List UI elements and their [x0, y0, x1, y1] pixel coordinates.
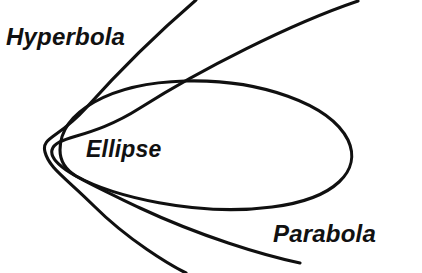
conic-sections-figure: Hyperbola Ellipse Parabola — [0, 0, 422, 273]
parabola-label: Parabola — [273, 220, 376, 248]
hyperbola-label: Hyperbola — [6, 23, 125, 51]
ellipse-label: Ellipse — [86, 136, 162, 163]
